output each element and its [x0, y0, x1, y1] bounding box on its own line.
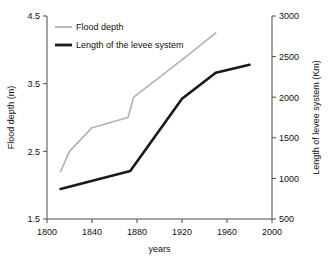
legend-label-levee-length: Length of the levee system — [76, 40, 184, 50]
y-axis-right-tick-label: 2500 — [279, 52, 299, 62]
x-axis-tick-label: 1800 — [37, 227, 57, 237]
y-axis-right-tick-label: 1000 — [279, 174, 299, 184]
y-axis-left-tick-label: 1.5 — [27, 214, 40, 224]
plot-area: 1.52.53.54.5 50010001500200025003000 180… — [6, 11, 321, 254]
chart-legend: Flood depthLength of the levee system — [55, 22, 184, 50]
series-line-levee-length — [61, 65, 250, 189]
y-axis-right-tick-label: 1500 — [279, 133, 299, 143]
x-axis-tick-label: 1880 — [127, 227, 147, 237]
series-line-flood-depth — [61, 33, 216, 172]
y-axis-left-tick-label: 4.5 — [27, 11, 40, 21]
x-axis-tick-label: 1840 — [82, 227, 102, 237]
legend-label-flood-depth: Flood depth — [76, 22, 124, 32]
y-axis-right-tick-label: 2000 — [279, 93, 299, 103]
y-axis-right-title: Length of levee system (Km) — [311, 60, 321, 175]
y-axis-right-tick-label: 3000 — [279, 11, 299, 21]
x-axis-tick-label: 1960 — [217, 227, 237, 237]
y-axis-left-tick-label: 2.5 — [27, 147, 40, 157]
x-axis-tick-label: 2000 — [262, 227, 282, 237]
y-axis-right-tick-label: 500 — [279, 214, 294, 224]
chart-container: 1.52.53.54.5 50010001500200025003000 180… — [0, 0, 333, 259]
y-axis-left-tick-label: 3.5 — [27, 79, 40, 89]
y-axis-right: 50010001500200025003000 — [272, 11, 299, 224]
axis-titles: yearsFlood depth (m)Length of levee syst… — [6, 60, 321, 254]
x-axis: 180018401880192019602000 — [37, 219, 282, 237]
x-axis-title: years — [148, 244, 171, 254]
y-axis-left: 1.52.53.54.5 — [27, 11, 47, 224]
series-layer — [61, 33, 250, 189]
line-chart: 1.52.53.54.5 50010001500200025003000 180… — [0, 0, 333, 259]
y-axis-left-title: Flood depth (m) — [6, 86, 16, 150]
x-axis-tick-label: 1920 — [172, 227, 192, 237]
